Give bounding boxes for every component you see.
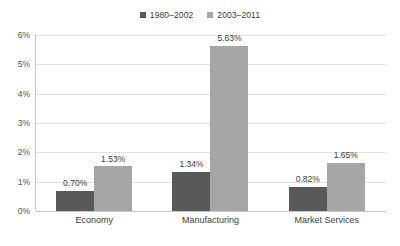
legend-item-1980-2002[interactable]: 1980–2002	[140, 11, 193, 20]
y-axis-tick: 1%	[0, 178, 30, 187]
bar-chart: 1980–2002 2003–2011 6% 5% 4% 3% 2% 1% 0%…	[0, 0, 400, 246]
bar-slot: 0.82%	[289, 35, 327, 211]
axis-baseline	[36, 211, 386, 212]
bar-manufacturing-1980-2002[interactable]	[172, 172, 210, 211]
bar-slot: 0.70%	[56, 35, 94, 211]
legend-label: 2003–2011	[217, 11, 260, 20]
legend-swatch-icon	[140, 12, 146, 18]
bar-value-label: 1.53%	[101, 155, 125, 164]
bar-economy-1980-2002[interactable]	[56, 191, 94, 212]
bar-market-services-1980-2002[interactable]	[289, 187, 327, 211]
y-axis-tick: 3%	[0, 119, 30, 128]
x-axis: Economy Manufacturing Market Services	[36, 216, 385, 226]
y-axis-tick: 5%	[0, 60, 30, 69]
bar-slot: 5.63%	[210, 35, 248, 211]
x-axis-label-market-services: Market Services	[269, 216, 385, 226]
bar-slot: 1.34%	[172, 35, 210, 211]
bar-slot: 1.53%	[94, 35, 132, 211]
bar-value-label: 1.34%	[179, 160, 203, 169]
bar-manufacturing-2003-2011[interactable]	[210, 46, 248, 211]
bar-slot: 1.65%	[327, 35, 365, 211]
bar-economy-2003-2011[interactable]	[94, 166, 132, 211]
bar-group-economy: 0.70% 1.53%	[36, 35, 152, 211]
x-axis-label-manufacturing: Manufacturing	[152, 216, 268, 226]
y-axis-tick: 4%	[0, 90, 30, 99]
legend-label: 1980–2002	[150, 11, 193, 20]
x-axis-label-economy: Economy	[36, 216, 152, 226]
bar-market-services-2003-2011[interactable]	[327, 163, 365, 211]
y-axis-tick: 6%	[0, 31, 30, 40]
bar-group-manufacturing: 1.34% 5.63%	[152, 35, 268, 211]
bar-value-label: 5.63%	[217, 34, 241, 43]
y-axis-tick: 0%	[0, 207, 30, 216]
legend-swatch-icon	[207, 12, 213, 18]
y-axis-tick: 2%	[0, 148, 30, 157]
bar-value-label: 0.70%	[63, 179, 87, 188]
bar-value-label: 0.82%	[296, 175, 320, 184]
chart-legend: 1980–2002 2003–2011	[0, 9, 400, 21]
bar-group-market-services: 0.82% 1.65%	[269, 35, 385, 211]
legend-item-2003-2011[interactable]: 2003–2011	[207, 11, 260, 20]
bar-value-label: 1.65%	[334, 151, 358, 160]
bar-groups: 0.70% 1.53% 1.34% 5.63% 0.82%	[36, 35, 385, 211]
